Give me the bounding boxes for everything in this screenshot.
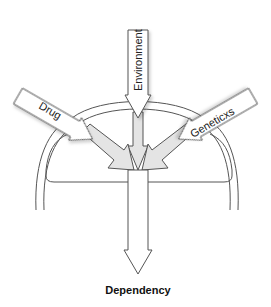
dependency-label: Dependency — [105, 284, 171, 296]
dependency-arrow — [124, 170, 152, 274]
inner-converging-arrows — [82, 112, 194, 170]
environment-label: Environment — [132, 29, 144, 91]
dependency-diagram: Environment Drug Geneticxs Dependency — [0, 0, 271, 307]
